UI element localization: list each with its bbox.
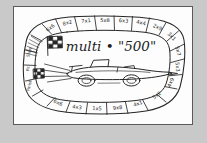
sketch-page: 6x6 8x2 7x1 5x8 6x3 4x4 2x9 3x1 5x7 5x3 … (13, 6, 193, 125)
track-cell: 7x1 (81, 17, 91, 24)
track-cell: 5x7 (174, 46, 182, 57)
track-cell: 9x8 (112, 104, 122, 111)
track-cell: 4x3 (72, 103, 82, 111)
track-cell: 4x4 (136, 18, 147, 26)
track-cell: 6x6 (45, 22, 56, 32)
track-cell: 5x8 (100, 17, 110, 23)
checkered-flag-icon (47, 36, 62, 55)
track-cell: 5x3 (174, 62, 181, 72)
game-board: 6x6 8x2 7x1 5x8 6x3 4x4 2x9 3x1 5x7 5x3 … (14, 7, 193, 125)
track-cell: 1x5 (92, 105, 102, 111)
board-title: multi • "500" (66, 38, 156, 54)
race-car-icon (67, 60, 178, 87)
track-cell: 6x6 (53, 98, 64, 107)
speed-lines (43, 64, 71, 82)
track-cell: 8x2 (62, 18, 73, 26)
track-cell: 6x3 (119, 17, 129, 24)
track-cell: 4x9 (166, 77, 175, 88)
track-cell-labels: 6x6 8x2 7x1 5x8 6x3 4x4 2x9 3x1 5x7 5x3 … (25, 17, 182, 111)
track-cell-pit: Pit (25, 66, 31, 72)
